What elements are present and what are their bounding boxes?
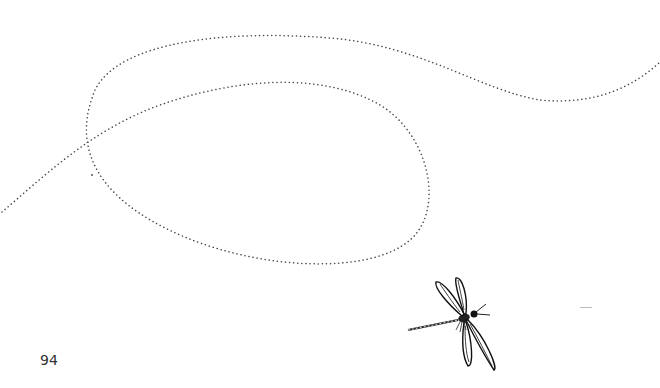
dotted-flight-path <box>0 0 660 388</box>
dash-mark <box>580 307 592 308</box>
document-page: 94 <box>0 0 660 388</box>
dragonfly-icon <box>398 274 508 374</box>
page-number: 94 <box>40 352 58 368</box>
stray-dot <box>91 174 93 176</box>
